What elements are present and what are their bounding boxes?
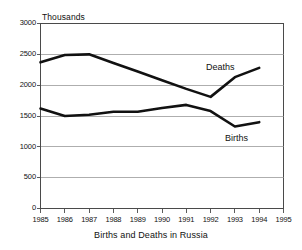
- y-tick-label: 500: [2, 173, 36, 181]
- series-label-deaths: Deaths: [206, 62, 235, 72]
- x-axis-tick-marks: [41, 209, 284, 213]
- y-tick-label: 3000: [2, 19, 36, 27]
- series-line-deaths: [41, 54, 260, 97]
- y-tick-label: 0: [2, 204, 36, 212]
- y-tick-label: 1000: [2, 143, 36, 151]
- y-tick-label: 2000: [2, 81, 36, 89]
- chart-title: Births and Deaths in Russia: [0, 230, 302, 241]
- y-tick-label: 1500: [2, 112, 36, 120]
- y-axis-tick-marks: [37, 24, 41, 209]
- chart-canvas: [0, 0, 302, 250]
- chart-container: Thousands 050010001500200025003000 19851…: [0, 0, 302, 250]
- y-tick-label: 2500: [2, 50, 36, 58]
- series-label-births: Births: [225, 133, 248, 143]
- x-tick-label: 1995: [269, 215, 299, 224]
